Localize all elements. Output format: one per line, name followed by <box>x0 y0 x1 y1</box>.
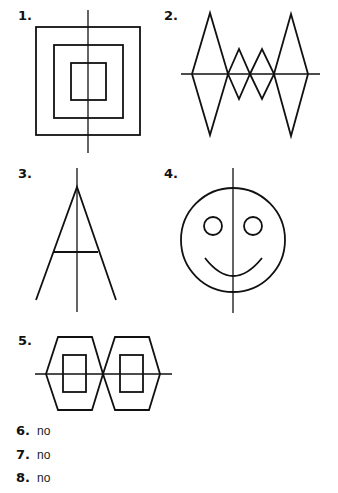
answer-6-label: 6. <box>16 423 30 438</box>
answer-6-text: no <box>37 424 50 438</box>
figure-1-squares <box>36 10 140 153</box>
answer-8-text: no <box>37 471 50 485</box>
figures-canvas <box>0 0 338 493</box>
answer-7-text: no <box>37 448 50 462</box>
figure-2-zigzag <box>181 13 320 136</box>
answer-8-label: 8. <box>16 470 30 485</box>
figure-3-easel <box>36 168 116 312</box>
figure-5-hexagons <box>35 337 172 410</box>
figure-4-smiley <box>181 168 285 313</box>
answer-7-label: 7. <box>16 447 30 462</box>
